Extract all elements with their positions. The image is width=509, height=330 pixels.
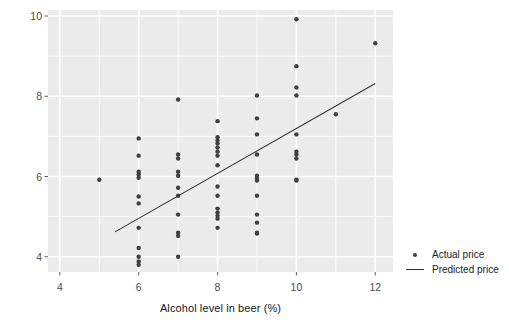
- legend: Actual price Predicted price: [404, 247, 499, 277]
- x-axis-label: Alcohol level in beer (%): [48, 302, 393, 314]
- x-tick-label: 4: [45, 281, 75, 293]
- y-tick-label: 8: [20, 90, 42, 102]
- legend-label-actual-price: Actual price: [426, 249, 484, 260]
- legend-line-icon: [404, 262, 426, 277]
- x-tick-label: 12: [360, 281, 390, 293]
- panel-background: [48, 10, 393, 272]
- legend-dot-icon: [404, 247, 426, 262]
- x-tick-label: 6: [124, 281, 154, 293]
- x-axis-ticks: 4681012: [0, 281, 509, 297]
- scatter-plot-figure: Price of beer per bottle (Euro) Alcohol …: [0, 0, 509, 330]
- y-tick-label: 6: [20, 171, 42, 183]
- legend-item-actual-price: Actual price: [404, 247, 499, 262]
- y-tick-label: 4: [20, 251, 42, 263]
- x-tick-label: 8: [203, 281, 233, 293]
- x-tick-label: 10: [281, 281, 311, 293]
- y-tick-label: 10: [20, 10, 42, 22]
- legend-label-predicted-price: Predicted price: [426, 264, 499, 275]
- legend-item-predicted-price: Predicted price: [404, 262, 499, 277]
